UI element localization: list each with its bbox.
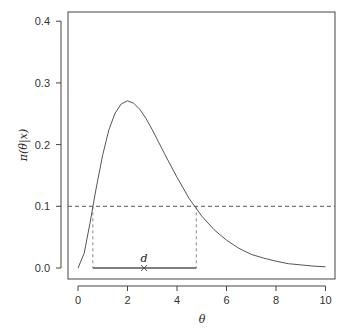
x-tick-label: 10 — [319, 294, 331, 306]
x-tick-label: 8 — [273, 294, 279, 306]
y-axis: 0.00.10.20.30.4 — [35, 15, 61, 274]
x-tick-label: 2 — [124, 294, 130, 306]
x-axis-title: θ — [199, 313, 206, 326]
plot-frame — [68, 12, 335, 279]
y-tick-label: 0.2 — [35, 139, 50, 151]
point-estimate-label: d — [141, 252, 148, 265]
y-tick-label: 0.3 — [35, 77, 50, 89]
x-tick-label: 0 — [75, 294, 81, 306]
x-tick-label: 4 — [174, 294, 180, 306]
y-tick-label: 0.1 — [35, 200, 50, 212]
posterior-density-chart: 0.00.10.20.30.4 0246810 d π(θ|x) θ — [0, 0, 347, 334]
y-tick-label: 0.4 — [35, 15, 50, 27]
density-curve — [78, 101, 326, 268]
x-tick-label: 6 — [223, 294, 229, 306]
y-axis-title: π(θ|x) — [17, 129, 31, 162]
x-axis: 0246810 — [75, 286, 332, 306]
y-tick-label: 0.0 — [35, 262, 50, 274]
